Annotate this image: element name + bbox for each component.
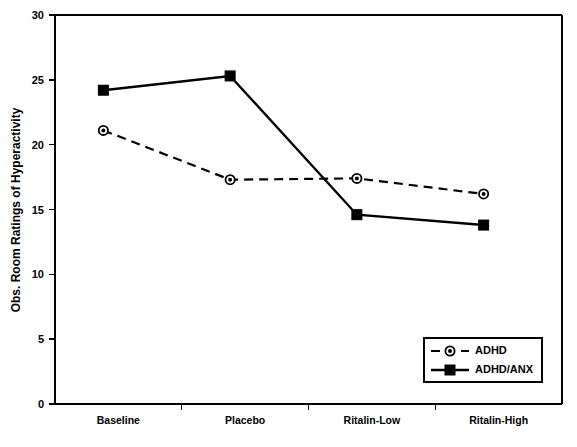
y-tick-label: 30 <box>32 9 44 21</box>
legend-label: ADHD/ANX <box>475 363 534 375</box>
y-tick-label: 15 <box>32 204 44 216</box>
data-point-circle-marker-dot <box>482 192 486 196</box>
data-point-circle-marker-dot <box>355 176 359 180</box>
y-tick-label: 5 <box>38 333 44 345</box>
y-tick-label: 25 <box>32 74 44 86</box>
y-axis: 051015202530 <box>32 9 55 410</box>
series-adhd <box>99 126 488 199</box>
y-tick-label: 20 <box>32 139 44 151</box>
hyperactivity-line-chart: 051015202530 Obs. Room Ratings of Hypera… <box>0 0 577 447</box>
x-tick-label-ritalin-high: Ritalin-High <box>469 414 528 426</box>
data-point-square-marker <box>352 210 362 220</box>
data-point-square-marker <box>225 71 235 81</box>
series-line <box>103 76 483 225</box>
y-tick-label: 0 <box>38 398 44 410</box>
y-tick-label: 10 <box>32 268 44 280</box>
y-axis-title: Obs. Room Ratings of Hyperactivity <box>9 107 23 312</box>
x-tick-label-placebo: Placebo <box>225 414 265 426</box>
series-adhd-anx <box>98 71 488 230</box>
x-tick-label-ritalin-low: Ritalin-Low <box>344 414 401 426</box>
x-tick-label-baseline: Baseline <box>97 414 140 426</box>
x-axis: BaselinePlaceboRitalin-LowRitalin-High <box>97 404 528 426</box>
data-point-circle-marker-dot <box>101 128 105 132</box>
data-point-circle-marker-dot <box>228 178 232 182</box>
legend-entry-adhd-anx: ADHD/ANX <box>431 363 534 375</box>
series-line <box>103 130 483 194</box>
legend-label: ADHD <box>475 344 507 356</box>
chart-legend: ADHDADHD/ANX <box>424 338 542 382</box>
legend-marker-square-marker <box>445 365 455 375</box>
data-point-square-marker <box>479 220 489 230</box>
legend-marker-circle-marker-dot <box>448 349 452 353</box>
data-point-square-marker <box>98 85 108 95</box>
data-series <box>98 71 488 230</box>
chart-svg: 051015202530 Obs. Room Ratings of Hypera… <box>0 0 577 447</box>
